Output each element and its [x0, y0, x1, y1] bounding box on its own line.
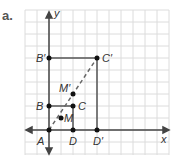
- point-D: [71, 128, 76, 133]
- point-C-prime: [95, 56, 100, 61]
- part-label: a.: [2, 8, 13, 23]
- dilation-diagram: a. x y: [0, 0, 184, 167]
- label-M-prime: M′: [59, 82, 71, 94]
- point-B: [47, 104, 52, 109]
- point-C: [71, 104, 76, 109]
- label-A: A: [36, 135, 44, 147]
- label-M: M: [64, 112, 74, 124]
- label-D: D: [69, 135, 77, 147]
- point-A: [47, 128, 52, 133]
- x-axis-left-arrow-icon: [26, 127, 32, 133]
- point-D-prime: [95, 128, 100, 133]
- point-M: [59, 116, 64, 121]
- point-M-prime: [71, 92, 76, 97]
- x-axis-label: x: [160, 133, 167, 145]
- label-D-prime: D′: [93, 135, 104, 147]
- label-C-prime: C′: [102, 52, 113, 64]
- y-axis-label: y: [53, 7, 61, 19]
- label-B: B: [36, 100, 43, 112]
- y-axis-arrow-icon: [46, 12, 52, 18]
- label-C: C: [78, 100, 86, 112]
- point-B-prime: [47, 56, 52, 61]
- y-axis-down-arrow-icon: [46, 148, 52, 154]
- label-B-prime: B′: [36, 52, 46, 64]
